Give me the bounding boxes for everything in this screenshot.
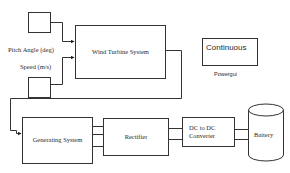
continuous-block: Continuous [202,38,258,66]
rectifier-label: Rectifier [125,133,148,141]
battery-label: Battery [254,132,273,139]
speed-label: Speed (m/s) [20,64,51,71]
wind-turbine-label: Wind Turbine System [92,48,149,56]
rectifier-block: Rectifier [103,118,169,156]
pitch-input-block [29,13,51,33]
generating-system-block: Generating System [22,117,93,164]
wind-turbine-block: Wind Turbine System [75,25,166,79]
powergui-label: Powergui [214,72,237,78]
dc-converter-label-line2: Converter [189,132,215,140]
dc-converter-label-line1: DC to DC [189,124,215,132]
generating-system-label: Generating System [33,136,83,144]
continuous-label: Continuous [206,43,246,53]
dc-to-dc-converter-block: DC to DC Converter [182,117,235,147]
speed-input-block [29,78,51,98]
pitch-angle-label: Pitch Angle (deg) [8,47,54,54]
